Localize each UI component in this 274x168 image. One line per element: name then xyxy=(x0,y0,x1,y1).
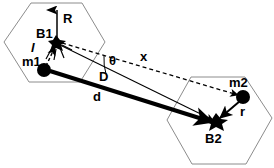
edge-d xyxy=(50,71,212,122)
label-theta: θ xyxy=(109,54,116,67)
label-D: D xyxy=(99,70,108,83)
label-x: x xyxy=(140,50,147,63)
label-B2: B2 xyxy=(205,132,222,145)
label-m2: m2 xyxy=(229,76,248,89)
edge-r xyxy=(220,101,240,118)
node-m2[interactable] xyxy=(236,90,250,104)
label-l: l xyxy=(31,41,35,54)
node-B2[interactable] xyxy=(205,113,228,131)
label-d: d xyxy=(93,90,101,103)
label-R: R xyxy=(63,12,72,25)
diagram-canvas: B1 m1 B2 m2 R l D d x r θ xyxy=(0,0,274,168)
label-m1: m1 xyxy=(22,55,41,68)
label-r: r xyxy=(240,105,245,118)
label-B1: B1 xyxy=(36,27,53,40)
